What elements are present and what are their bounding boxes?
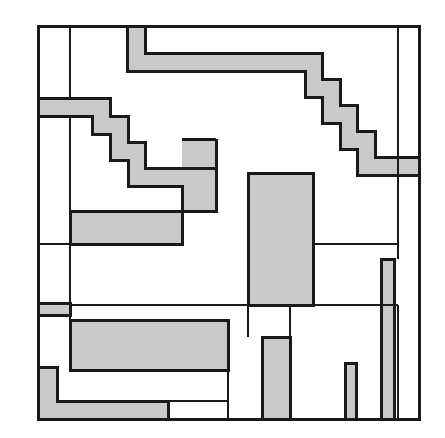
mid-left-gray-block: [70, 211, 182, 244]
upper-mid-gray-column: [182, 139, 216, 211]
bottom-center-gray-bar: [262, 337, 290, 419]
bottom-thin-bar-short: [345, 363, 356, 419]
composition-canvas: [0, 0, 445, 438]
central-tall-gray-block: [248, 173, 313, 305]
bottom-thin-bar-tall: [381, 259, 394, 419]
left-short-band: [38, 303, 70, 315]
lower-wide-gray-block: [70, 320, 228, 370]
artboard: [0, 0, 445, 438]
